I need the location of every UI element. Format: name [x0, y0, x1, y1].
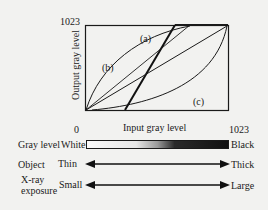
xray-right: Large — [231, 181, 254, 191]
xray-left: Small — [59, 180, 82, 190]
curve-b-label: (b) — [102, 63, 114, 73]
arrow-right-head — [220, 160, 230, 168]
object-left: Thin — [58, 159, 77, 169]
y-axis-max-tick: 1023 — [60, 17, 80, 27]
curve-a-label: (a) — [140, 34, 151, 44]
object-right: Thick — [231, 160, 254, 170]
gray-level-left: White — [61, 140, 85, 150]
gray-level-row-label: Gray level — [18, 140, 60, 150]
gray-level-bar — [87, 141, 229, 149]
object-row-label: Object — [18, 160, 45, 170]
xray-row-label-line2: exposure — [21, 186, 57, 196]
scale-min-label: 0 — [74, 125, 79, 135]
gray-level-right: Black — [231, 140, 254, 150]
arrow-left-head — [85, 160, 95, 168]
curve-c-label: (c) — [193, 97, 204, 107]
xray-row-label-line1: X-ray — [21, 175, 44, 185]
y-axis-label: Output gray level — [70, 30, 81, 100]
x-axis-label: Input gray level — [123, 123, 186, 133]
scale-max-label: 1023 — [229, 125, 249, 135]
